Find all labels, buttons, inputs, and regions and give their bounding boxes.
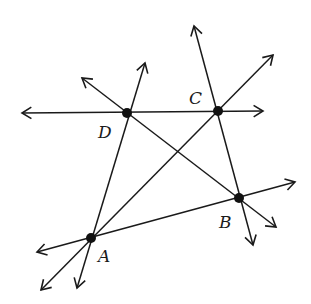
point-C: [213, 106, 223, 116]
line-DB: [82, 78, 276, 227]
line-DC: [22, 105, 263, 118]
line-DA: [74, 63, 148, 288]
point-B: [234, 193, 244, 203]
label-B: B: [218, 212, 232, 232]
geometry-diagram: ABCD: [0, 0, 311, 304]
label-C: C: [189, 88, 202, 108]
point-A: [86, 233, 96, 243]
label-A: A: [96, 246, 110, 266]
label-D: D: [97, 122, 112, 142]
line-AC: [41, 55, 273, 290]
diagram-svg: ABCD: [0, 0, 311, 304]
point-D: [122, 108, 132, 118]
line-AB: [37, 179, 295, 255]
